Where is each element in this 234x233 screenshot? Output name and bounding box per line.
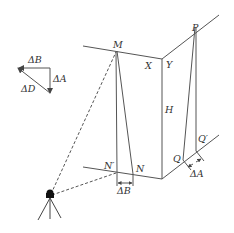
label-delta-a: ΔA [52,73,67,84]
line-m-n-prime [116,51,117,172]
label-q: Q [173,153,181,164]
offset-delta-b: ΔB [116,172,133,196]
vector-triangle: ΔB ΔA ΔD [18,54,67,94]
line-m-n [117,51,133,174]
label-p: P [191,22,199,33]
projection-lines [116,27,196,174]
bottom-left-edge [83,167,162,179]
label-h: H [164,104,174,115]
label-y: Y [166,59,174,70]
label-q-prime: Q′ [198,133,209,144]
label-delta-d: ΔD [20,83,36,94]
top-right-edge [162,15,219,59]
label-delta-b: ΔB [27,54,42,65]
total-station-icon [38,190,61,221]
label-x: X [144,60,153,71]
line-p-q [183,27,195,160]
label-offset-delta-a: ΔA [189,168,204,179]
label-offset-delta-b: ΔB [116,185,131,196]
label-n: N [135,163,145,174]
label-m: M [112,39,123,50]
label-n-prime: N′ [103,160,115,171]
sight-line-to-n-prime [52,173,116,195]
survey-diagram: ΔB ΔA ΔD ΔB ΔA [0,0,234,233]
